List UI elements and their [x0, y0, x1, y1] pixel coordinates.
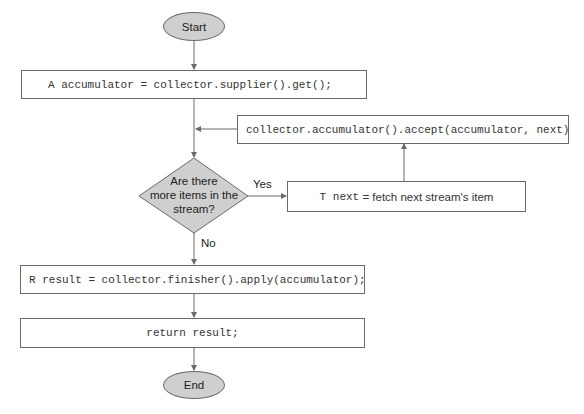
start-label: Start — [182, 21, 206, 33]
fetch-next-text: = fetch next stream's item — [359, 191, 493, 203]
end-terminal: End — [163, 371, 225, 399]
no-label: No — [201, 237, 216, 249]
start-terminal: Start — [163, 12, 225, 41]
accept-box: collector.accumulator().accept(accumulat… — [237, 115, 569, 144]
decision-line-1: Are there — [148, 174, 240, 188]
decision-line-2: more items in the — [148, 188, 240, 202]
fetch-next-code: T next — [320, 191, 360, 203]
return-box: return result; — [20, 318, 365, 348]
init-accumulator-box: A accumulator = collector.supplier().get… — [21, 70, 367, 99]
return-code: return result; — [146, 327, 238, 339]
fetch-next-box: T next = fetch next stream's item — [287, 181, 526, 212]
init-accumulator-code: A accumulator = collector.supplier().get… — [48, 79, 332, 91]
decision-text: Are there more items in the stream? — [148, 174, 240, 216]
flowchart-diagram: Start A accumulator = collector.supplier… — [0, 0, 584, 414]
decision-line-3: stream? — [148, 202, 240, 216]
end-label: End — [184, 379, 204, 391]
finisher-code: R result = collector.finisher().apply(ac… — [29, 274, 366, 286]
finisher-box: R result = collector.finisher().apply(ac… — [20, 265, 365, 294]
yes-label: Yes — [253, 178, 272, 190]
accept-code: collector.accumulator().accept(accumulat… — [246, 124, 569, 136]
